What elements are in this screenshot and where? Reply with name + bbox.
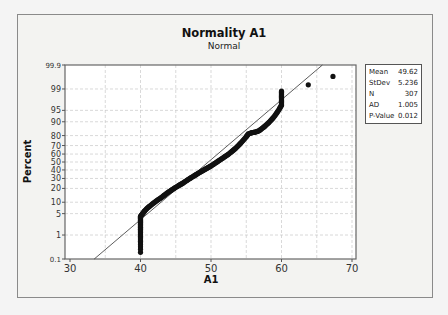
x-tick-label: 50: [205, 263, 218, 274]
y-tick-label: 10: [51, 198, 61, 207]
y-tick-label: 0.1: [50, 256, 61, 264]
y-tick-label: 80: [51, 132, 61, 141]
legend-row-mean: Mean49.62: [369, 67, 418, 78]
data-point: [306, 82, 311, 87]
y-tick-label: 1: [56, 231, 61, 240]
data-point: [279, 89, 284, 94]
x-tick-label: 40: [134, 263, 147, 274]
stats-legend: Mean49.62 StDev5.236 N307 AD1.005 P-Valu…: [365, 64, 422, 124]
y-tick-label: 20: [51, 184, 61, 193]
x-tick-label: 70: [346, 263, 359, 274]
y-tick-label: 5: [56, 210, 61, 219]
legend-row-stdev: StDev5.236: [369, 78, 418, 89]
y-tick-label: 60: [51, 150, 61, 159]
data-point: [330, 74, 335, 79]
legend-row-pvalue: P-Value0.012: [369, 111, 418, 122]
y-tick-label: 50: [51, 158, 61, 167]
y-tick-label: 95: [51, 106, 61, 115]
y-tick-label: 70: [51, 142, 61, 151]
probability-plot: 0.115102030405060708090959999.9304050607…: [0, 0, 448, 315]
x-tick-label: 30: [64, 263, 77, 274]
y-tick-label: 99: [51, 85, 61, 94]
y-tick-label: 90: [51, 118, 61, 127]
y-tick-label: 30: [51, 174, 61, 183]
legend-row-n: N307: [369, 89, 418, 100]
y-tick-label: 99.9: [45, 62, 61, 70]
x-tick-label: 60: [275, 263, 288, 274]
y-tick-label: 40: [51, 166, 61, 175]
legend-row-ad: AD1.005: [369, 100, 418, 111]
